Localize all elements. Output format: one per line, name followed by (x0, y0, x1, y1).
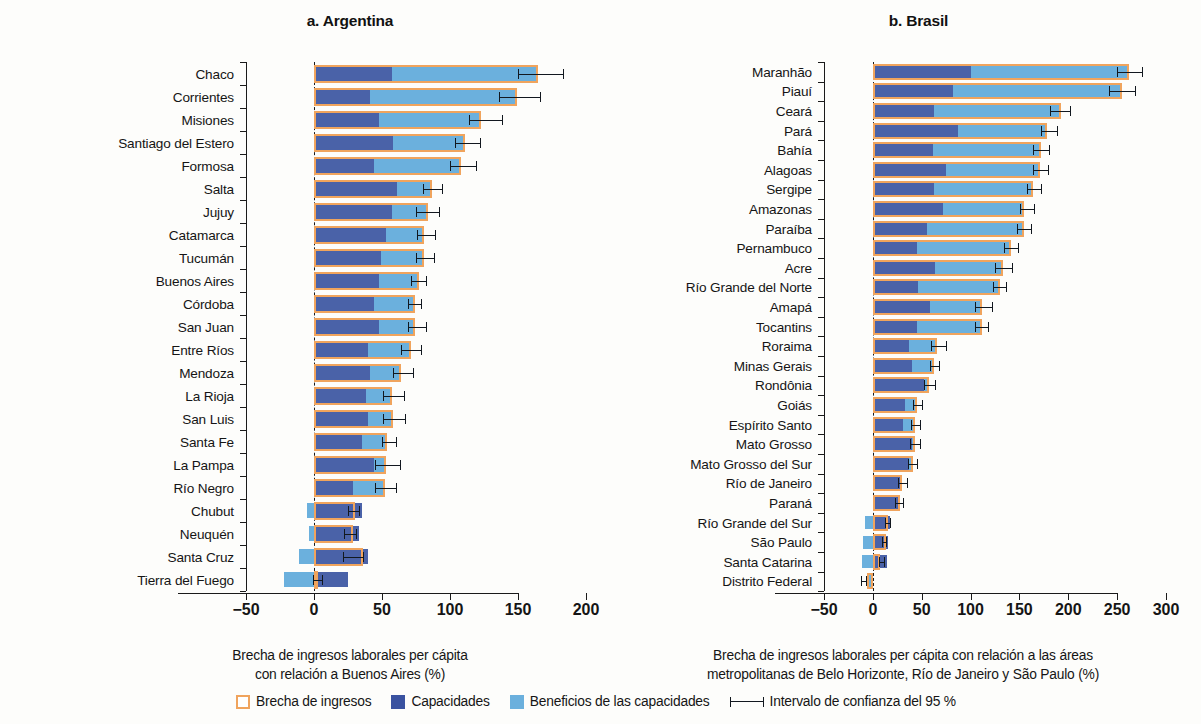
error-bar (930, 366, 940, 367)
panel_b-y-tick (818, 160, 824, 161)
error-bar-cap (476, 161, 477, 171)
panel_b-x-tick (922, 593, 923, 600)
error-bar-cap (1017, 224, 1018, 234)
bar-outline-brecha-de-ingresos (314, 479, 385, 497)
panel_b-y-tick (818, 317, 824, 318)
panel_b-x-tick-label: 100 (957, 601, 984, 619)
error-bar-cap (455, 138, 456, 148)
error-bar-cap (879, 557, 880, 567)
error-bar-cap (499, 92, 500, 102)
panel_a-x-tick (518, 593, 519, 600)
error-bar (1033, 150, 1049, 151)
error-bar-cap (895, 498, 896, 508)
panel-b-caption-line-2: metropolitanas de Belo Horizonte, Río de… (608, 665, 1198, 684)
error-bar (1020, 209, 1034, 210)
error-bar (417, 235, 435, 236)
bar-segment-beneficios (284, 572, 314, 587)
category-label: Río Grande del Sur (698, 515, 812, 530)
error-bar (408, 304, 422, 305)
panel_b-x-tick (873, 593, 874, 600)
panel_a-y-tick (240, 246, 246, 247)
error-bar-cap (885, 518, 886, 528)
error-bar-cap (975, 302, 976, 312)
error-bar (375, 488, 395, 489)
error-bar (995, 268, 1012, 269)
bar-outline-brecha-de-ingresos (873, 260, 1003, 276)
panel_b-y-tick (818, 199, 824, 200)
legend-label-capacidades: Capacidades (411, 694, 489, 709)
bar-outline-brecha-de-ingresos (873, 358, 935, 374)
legend-label-brecha-de-ingresos: Brecha de ingresos (256, 694, 371, 709)
error-bar-cap (423, 184, 424, 194)
error-bar-cap (1050, 106, 1051, 116)
bar-outline-brecha-de-ingresos (314, 157, 461, 175)
error-bar-cap (903, 498, 904, 508)
error-bar-cap (313, 575, 314, 585)
error-bar-cap (408, 299, 409, 309)
panel_a-y-tick (240, 476, 246, 477)
error-bar-cap (861, 576, 862, 586)
error-bar (1117, 72, 1141, 73)
category-label: Formosa (181, 158, 234, 173)
error-bar-cap (1012, 263, 1013, 273)
error-bar-cap (882, 537, 883, 547)
panel_b-y-tick (818, 376, 824, 377)
error-bar-cap (1031, 224, 1032, 234)
panel_a-y-tick (240, 85, 246, 86)
bar-outline-brecha-de-ingresos (873, 201, 1024, 217)
error-bar (1027, 189, 1041, 190)
error-bar (423, 189, 442, 190)
legend-item-beneficios: Beneficios de las capacidades (510, 694, 710, 709)
panel_b-y-tick (818, 101, 824, 102)
panel_b-y-tick (818, 474, 824, 475)
error-bar (408, 327, 426, 328)
panel_b-y-tick (818, 532, 824, 533)
error-bar-cap (1048, 165, 1049, 175)
error-bar (401, 350, 421, 351)
category-label: Acre (785, 260, 812, 275)
error-bar (898, 483, 907, 484)
panel_b-y-tick (818, 238, 824, 239)
panel_a-y-tick (240, 269, 246, 270)
category-label: Santa Cruz (167, 549, 234, 564)
panel_a-x-tick-label: 0 (310, 601, 319, 619)
panel_b-y-tick (818, 82, 824, 83)
bar-outline-brecha-de-ingresos (314, 295, 415, 313)
error-bar-cap (988, 322, 989, 332)
bar-outline-brecha-de-ingresos (873, 338, 937, 354)
category-label: Mato Grosso del Sur (690, 456, 812, 471)
error-bar (416, 212, 439, 213)
error-bar-cap (908, 459, 909, 469)
category-label: Río Negro (173, 480, 234, 495)
category-label: Distrito Federal (722, 574, 812, 589)
bar-outline-brecha-de-ingresos (873, 103, 1062, 119)
error-bar-cap (939, 361, 940, 371)
category-label: Tocantins (756, 319, 812, 334)
error-bar-cap (442, 184, 443, 194)
category-label: San Luis (182, 411, 234, 426)
error-bar-cap (1006, 282, 1007, 292)
category-label: La Pampa (173, 457, 234, 472)
error-bar (910, 444, 920, 445)
category-label: Amapá (770, 300, 812, 315)
category-label: Santiago del Estero (118, 135, 234, 150)
category-label: Paraíba (765, 221, 812, 236)
panel-b-y-axis (824, 62, 825, 591)
panel_b-x-tick-label: 250 (1104, 601, 1131, 619)
panel_a-y-tick (240, 62, 246, 63)
error-bar-cap (502, 115, 503, 125)
bar-outline-brecha-de-ingresos (873, 64, 1129, 80)
category-label: Córdoba (183, 296, 234, 311)
category-label: San Juan (178, 319, 234, 334)
panel-a-caption-line-2: con relación a Buenos Aires (%) (150, 665, 550, 684)
category-label: Bahía (777, 143, 812, 158)
error-bar-cap (907, 478, 908, 488)
legend-label-beneficios: Beneficios de las capacidades (530, 694, 710, 709)
error-bar-cap (344, 529, 345, 539)
bar-outline-brecha-de-ingresos (314, 249, 424, 267)
panel_a-y-tick (240, 223, 246, 224)
category-label: Catamarca (169, 227, 234, 242)
error-bar-cap (1033, 145, 1034, 155)
error-bar (416, 258, 434, 259)
category-label: Río Grande del Norte (686, 280, 812, 295)
